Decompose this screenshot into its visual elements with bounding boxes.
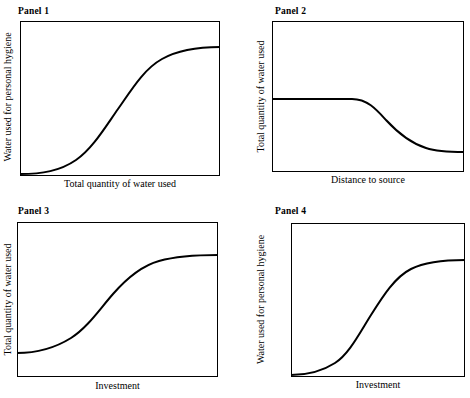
four-panel-figure: Panel 1 Water used for personal hygiene … <box>0 0 470 398</box>
panel-4-title: Panel 4 <box>275 207 306 217</box>
panel-3-x-axis-label: Investment <box>17 381 218 391</box>
panel-1-y-axis-label: Water used for personal hygiene <box>3 18 13 176</box>
panel-4-y-axis-label: Water used for personal hygiene <box>256 222 266 377</box>
panel-1-curve <box>20 21 220 176</box>
panel-4: Panel 4 Water used for personal hygiene … <box>252 199 470 398</box>
panel-1-x-axis-label: Total quantity of water used <box>20 179 220 189</box>
panel-4-curve <box>291 223 465 377</box>
panel-2-y-axis-label: Total quantity of water used <box>256 21 266 172</box>
panel-3-title: Panel 3 <box>18 207 49 217</box>
panel-2-x-axis-label: Distance to source <box>272 175 464 185</box>
panel-2-curve <box>272 21 464 172</box>
panel-1-title: Panel 1 <box>18 7 49 17</box>
panel-3-curve <box>17 222 218 377</box>
panel-4-x-axis-label: Investment <box>291 380 465 390</box>
panel-2: Panel 2 Total quantity of water used Dis… <box>252 0 470 199</box>
panel-2-title: Panel 2 <box>275 7 306 17</box>
panel-3-y-axis-label: Total quantity of water used <box>3 222 13 377</box>
panel-3: Panel 3 Total quantity of water used Inv… <box>0 199 235 398</box>
panel-1: Panel 1 Water used for personal hygiene … <box>0 0 235 199</box>
